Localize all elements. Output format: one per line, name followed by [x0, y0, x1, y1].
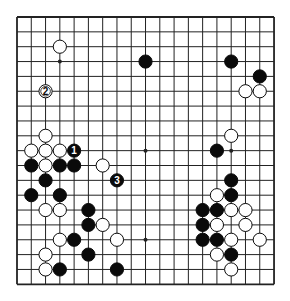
star-point [229, 149, 233, 153]
stone-disc [25, 144, 38, 157]
stone-disc [210, 203, 223, 216]
stone-disc [25, 159, 38, 172]
black-stone [39, 174, 52, 187]
black-stone [196, 233, 209, 246]
black-stone [82, 248, 95, 261]
stone-disc [239, 85, 252, 98]
stone-disc [196, 233, 209, 246]
stone-disc [253, 70, 266, 83]
black-stone [68, 159, 81, 172]
stone-disc [39, 144, 52, 157]
stone-disc [39, 203, 52, 216]
black-stone [53, 263, 66, 276]
white-stone [225, 203, 238, 216]
stone-disc [239, 218, 252, 231]
stone-disc [196, 203, 209, 216]
stone-disc [210, 233, 223, 246]
stone-disc [253, 85, 266, 98]
star-point [144, 149, 148, 153]
stone-disc [225, 233, 238, 246]
stone-disc [39, 174, 52, 187]
go-board-diagram: 213 [0, 0, 290, 301]
white-stone [39, 144, 52, 157]
black-stone: 3 [110, 174, 123, 187]
white-stone [239, 85, 252, 98]
black-stone [68, 233, 81, 246]
stone-disc [225, 263, 238, 276]
stone-disc [225, 189, 238, 202]
white-stone [210, 189, 223, 202]
stone-disc [39, 129, 52, 142]
stone-disc [96, 218, 109, 231]
stone-disc [53, 203, 66, 216]
stone-disc [82, 248, 95, 261]
star-point [144, 238, 148, 242]
white-stone [225, 263, 238, 276]
black-stone [82, 218, 95, 231]
white-stone [53, 144, 66, 157]
white-stone [253, 85, 266, 98]
stone-disc [210, 189, 223, 202]
white-stone [53, 233, 66, 246]
stone-disc [225, 203, 238, 216]
white-stone [39, 203, 52, 216]
stone-disc [225, 174, 238, 187]
white-stone [239, 218, 252, 231]
black-stone [210, 233, 223, 246]
stone-disc [53, 40, 66, 53]
white-stone [225, 129, 238, 142]
stone-disc [39, 248, 52, 261]
white-stone: 2 [39, 85, 52, 98]
white-stone [210, 218, 223, 231]
stone-disc [210, 218, 223, 231]
stone-disc [225, 129, 238, 142]
white-stone [39, 159, 52, 172]
black-stone [110, 263, 123, 276]
black-stone [139, 55, 152, 68]
white-stone [39, 248, 52, 261]
stone-disc [53, 263, 66, 276]
white-stone [239, 203, 252, 216]
white-stone [25, 144, 38, 157]
black-stone [225, 55, 238, 68]
black-stone [25, 189, 38, 202]
white-stone [53, 40, 66, 53]
black-stone [210, 203, 223, 216]
move-number-label: 1 [71, 145, 77, 156]
stone-disc [225, 248, 238, 261]
move-number-label: 2 [43, 86, 49, 97]
stone-disc [68, 233, 81, 246]
stone-disc [82, 218, 95, 231]
stone-disc [110, 233, 123, 246]
stone-disc [225, 55, 238, 68]
white-stone [39, 263, 52, 276]
black-stone [25, 159, 38, 172]
stone-disc [196, 218, 209, 231]
stone-disc [210, 248, 223, 261]
stone-disc [139, 55, 152, 68]
stone-disc [96, 159, 109, 172]
black-stone [253, 70, 266, 83]
stone-disc [53, 233, 66, 246]
stone-disc [82, 203, 95, 216]
black-stone: 1 [68, 144, 81, 157]
white-stone [110, 233, 123, 246]
star-point [58, 60, 62, 64]
stone-disc [39, 263, 52, 276]
stone-disc [53, 189, 66, 202]
white-stone [253, 233, 266, 246]
white-stone [210, 248, 223, 261]
white-stone [96, 218, 109, 231]
white-stone [53, 203, 66, 216]
stone-disc [110, 263, 123, 276]
black-stone [53, 189, 66, 202]
white-stone [39, 129, 52, 142]
white-stone [96, 159, 109, 172]
white-stone [225, 233, 238, 246]
black-stone [196, 203, 209, 216]
stone-disc [53, 144, 66, 157]
stone-disc [53, 159, 66, 172]
black-stone [53, 159, 66, 172]
stone-disc [239, 203, 252, 216]
stone-disc [68, 159, 81, 172]
